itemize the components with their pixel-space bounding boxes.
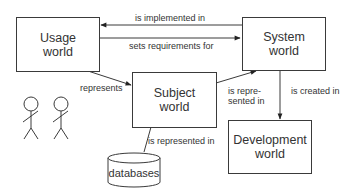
edge-label-is-represented-in-system: is repre- sented in [228, 86, 265, 106]
node-databases-label: databases [108, 167, 160, 179]
edge-label-is-represented-in-databases: is represented in [148, 136, 215, 146]
edge-label-sets-requirements-for: sets requirements for [129, 41, 214, 51]
stick-figure-icon [23, 97, 38, 139]
node-label: Development world [233, 133, 307, 161]
node-usage-world: Usage world [16, 17, 100, 72]
node-development-world: Development world [228, 120, 312, 174]
edge-label-is-implemented-in: is implemented in [135, 13, 205, 23]
node-label: Usage world [40, 31, 76, 59]
four-worlds-diagram: Usage world System world Subject world D… [0, 0, 349, 192]
node-label: System world [263, 30, 305, 58]
node-subject-world: Subject world [132, 72, 217, 128]
edge-is-represented-in-system [216, 71, 256, 83]
node-system-world: System world [242, 17, 326, 71]
edge-label-represents: represents [80, 83, 123, 93]
node-label: Subject world [154, 86, 196, 114]
stick-figure-icon [53, 97, 68, 139]
edge-label-is-created-in: is created in [291, 86, 340, 96]
